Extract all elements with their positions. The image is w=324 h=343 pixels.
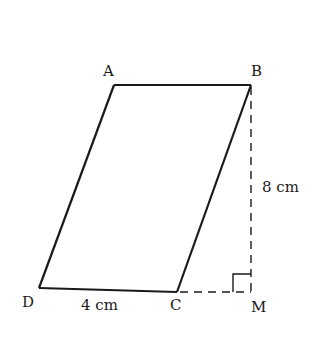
vertex-label-c: C bbox=[170, 296, 181, 314]
vertex-label-d: D bbox=[22, 293, 34, 311]
vertex-label-b: B bbox=[251, 62, 262, 80]
side-cd bbox=[39, 288, 177, 292]
height-length-label: 8 cm bbox=[262, 178, 299, 196]
parallelogram-diagram: A B C D M 4 cm 8 cm bbox=[0, 0, 324, 343]
vertex-label-m: M bbox=[251, 298, 266, 316]
vertex-label-a: A bbox=[102, 62, 114, 80]
side-da bbox=[39, 85, 114, 288]
side-bc bbox=[177, 85, 251, 292]
right-angle-marker bbox=[233, 274, 251, 292]
base-length-label: 4 cm bbox=[81, 296, 118, 314]
